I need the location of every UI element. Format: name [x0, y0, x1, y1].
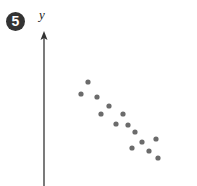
y-axis	[41, 31, 48, 186]
data-point	[85, 79, 90, 84]
data-point	[146, 148, 151, 153]
data-point	[94, 94, 99, 99]
data-point	[106, 103, 111, 108]
data-point	[113, 121, 118, 126]
data-point	[78, 91, 83, 96]
data-point	[129, 145, 134, 150]
data-point	[155, 155, 160, 160]
data-point	[98, 111, 103, 116]
data-point	[132, 129, 137, 134]
data-point	[125, 122, 130, 127]
data-points	[78, 79, 160, 160]
data-point	[153, 136, 158, 141]
data-point	[120, 111, 125, 116]
data-point	[139, 139, 144, 144]
scatter-plot	[0, 0, 197, 186]
